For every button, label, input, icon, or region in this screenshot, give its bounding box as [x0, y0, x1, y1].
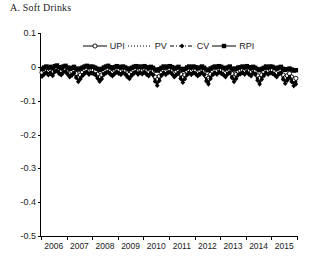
x-tick-mark [271, 236, 272, 240]
x-tick-label: 2009 [121, 241, 140, 251]
chart-figure: A. Soft Drinks 0.10-0.1-0.2-0.3-0.4-0.5 … [0, 0, 311, 275]
x-tick-mark [220, 236, 221, 240]
open-circle-marker [294, 76, 298, 80]
x-tick-label: 2012 [198, 241, 217, 251]
filled-square-marker [294, 68, 298, 72]
legend-label: PV [153, 41, 169, 51]
x-tick-mark [41, 236, 42, 240]
legend-item-rpi: RPI [211, 41, 256, 51]
x-tick-label: 2014 [249, 241, 268, 251]
chart-title: A. Soft Drinks [10, 2, 71, 13]
x-tick-label: 2015 [275, 241, 294, 251]
x-tick-mark [246, 236, 247, 240]
legend-swatch-rpi [211, 41, 237, 51]
legend-swatch-upi [82, 41, 108, 51]
x-tick-mark [169, 236, 170, 240]
legend-label: UPI [108, 41, 127, 51]
chart-legend: UPIPVCVRPI [41, 41, 297, 51]
x-tick-mark [118, 236, 119, 240]
legend-swatch-cv [169, 41, 195, 51]
diamond-marker [179, 43, 184, 48]
x-tick-label: 2010 [147, 241, 166, 251]
legend-label: CV [195, 41, 212, 51]
legend-swatch-pv [127, 41, 153, 51]
x-tick-mark [92, 236, 93, 240]
open-circle-marker [93, 44, 97, 48]
x-tick-mark [67, 236, 68, 240]
x-tick-label: 2008 [96, 241, 115, 251]
x-tick-mark [195, 236, 196, 240]
legend-item-pv: PV [127, 41, 169, 51]
filled-square-marker [222, 44, 226, 48]
diamond-marker [155, 83, 160, 88]
x-tick-label: 2007 [70, 241, 89, 251]
x-tick-label: 2011 [173, 241, 191, 251]
series-canvas [41, 33, 297, 236]
legend-item-cv: CV [169, 41, 212, 51]
plot-area: 0.10-0.1-0.2-0.3-0.4-0.5 200620072008200… [40, 33, 297, 237]
legend-label: RPI [237, 41, 256, 51]
x-tick-label: 2006 [44, 241, 63, 251]
x-tick-mark [297, 236, 298, 240]
x-tick-mark [143, 236, 144, 240]
x-tick-label: 2013 [224, 241, 243, 251]
legend-item-upi: UPI [82, 41, 127, 51]
